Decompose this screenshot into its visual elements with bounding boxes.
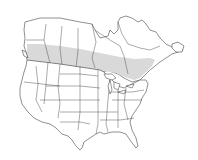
- range-map: [0, 0, 198, 160]
